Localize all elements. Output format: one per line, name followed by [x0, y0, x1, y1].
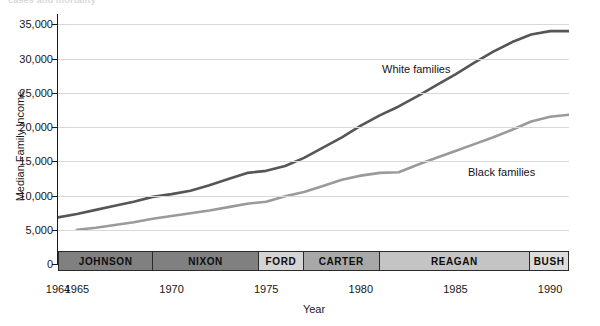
president-segment-johnson: JOHNSON	[59, 252, 153, 270]
y-tick-label: 10,000	[0, 190, 53, 202]
y-tick-label: 20,000	[0, 121, 53, 133]
gridline	[58, 24, 569, 25]
y-tick-mark	[52, 59, 58, 60]
y-tick-mark	[52, 196, 58, 197]
x-axis-tick-labels: 1964196519701975198019851990	[0, 283, 600, 299]
y-tick-mark	[52, 161, 58, 162]
president-segment-carter: CARTER	[304, 252, 379, 270]
x-tick-label: 1990	[538, 283, 562, 295]
y-tick-mark	[52, 230, 58, 231]
y-tick-label: 5,000	[0, 224, 53, 236]
chart-figure: cases and mortality Median Family Income…	[0, 0, 600, 326]
gridline	[58, 230, 569, 231]
gridline	[58, 161, 569, 162]
y-tick-label: 30,000	[0, 53, 53, 65]
president-segment-nixon: NIXON	[153, 252, 259, 270]
y-tick-label: 0	[0, 258, 53, 270]
series-lines	[58, 14, 569, 264]
gridline	[58, 127, 569, 128]
y-tick-label: 25,000	[0, 87, 53, 99]
y-tick-label: 35,000	[0, 18, 53, 30]
y-tick-mark	[52, 127, 58, 128]
y-tick-label: 15,000	[0, 155, 53, 167]
x-axis-title: Year	[58, 303, 570, 315]
x-tick-label: 1965	[65, 283, 89, 295]
gridline	[58, 93, 569, 94]
y-axis-tick-labels: 05,00010,00015,00020,00025,00030,00035,0…	[0, 0, 53, 326]
x-tick-label: 1980	[349, 283, 373, 295]
series-label: White families	[382, 63, 450, 75]
gridline	[58, 196, 569, 197]
plot-area	[58, 14, 569, 264]
gridline	[58, 59, 569, 60]
president-segment-ford: FORD	[259, 252, 304, 270]
x-tick-label: 1985	[443, 283, 467, 295]
series-label: Black families	[468, 166, 535, 178]
y-tick-mark	[52, 93, 58, 94]
president-segment-bush: BUSH	[530, 252, 568, 270]
president-segment-reagan: REAGAN	[380, 252, 531, 270]
president-band: JOHNSONNIXONFORDCARTERREAGANBUSH	[58, 251, 569, 271]
x-tick-label: 1970	[159, 283, 183, 295]
x-tick-label: 1975	[254, 283, 278, 295]
y-tick-mark	[52, 24, 58, 25]
